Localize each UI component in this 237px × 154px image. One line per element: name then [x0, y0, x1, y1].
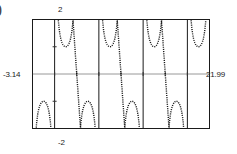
function-curve: [36, 20, 206, 128]
figure-container: ) 2 -2 -3.14 21.99: [0, 0, 237, 154]
plot-canvas: [0, 0, 237, 154]
